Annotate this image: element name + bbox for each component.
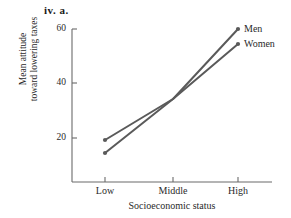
data-point-men-low xyxy=(103,151,107,155)
series-label-men: Men xyxy=(244,23,262,34)
data-point-women-high xyxy=(236,42,240,46)
series-label-women: Women xyxy=(244,38,275,49)
series-line-women xyxy=(105,44,238,140)
data-point-men-high xyxy=(236,27,240,31)
chart-figure: iv. a. Mean attitude toward lowering tax… xyxy=(0,0,291,218)
series-line-men xyxy=(105,29,238,153)
data-point-women-low xyxy=(103,138,107,142)
